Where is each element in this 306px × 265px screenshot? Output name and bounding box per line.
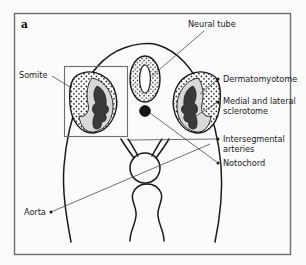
neural-tube-lumen bbox=[140, 65, 151, 93]
dot-intersegmental-arteries bbox=[217, 138, 220, 141]
panel-letter: a bbox=[21, 18, 28, 30]
dot-notochord bbox=[217, 162, 220, 165]
label-notochord: Notochord bbox=[223, 158, 265, 168]
dot-medial-lateral-sclerotome bbox=[217, 101, 220, 104]
label-intersegmental-arteries-line1: Intersegmental bbox=[223, 134, 285, 144]
label-neural-tube: Neural tube bbox=[188, 19, 236, 29]
neural-tube-structure bbox=[130, 56, 160, 102]
embryo-cross-section-diagram bbox=[0, 0, 306, 265]
label-dermatomyotome: Dermatomyotome bbox=[223, 74, 297, 84]
label-aorta: Aorta bbox=[24, 207, 46, 217]
notochord-structure bbox=[140, 106, 151, 117]
figure-panel: a Neural tube Somite Dermatomyotome Medi… bbox=[0, 0, 306, 265]
label-medial-lateral-sclerotome-line1: Medial and lateral bbox=[223, 96, 296, 106]
dot-aorta bbox=[50, 211, 53, 214]
somite-right bbox=[173, 72, 220, 133]
label-somite: Somite bbox=[19, 70, 47, 80]
label-medial-lateral-sclerotome-line2: sclerotome bbox=[223, 106, 268, 116]
dot-dermatomyotome bbox=[217, 78, 220, 81]
somite-left bbox=[70, 72, 117, 133]
label-intersegmental-arteries-line2: arteries bbox=[223, 144, 254, 154]
